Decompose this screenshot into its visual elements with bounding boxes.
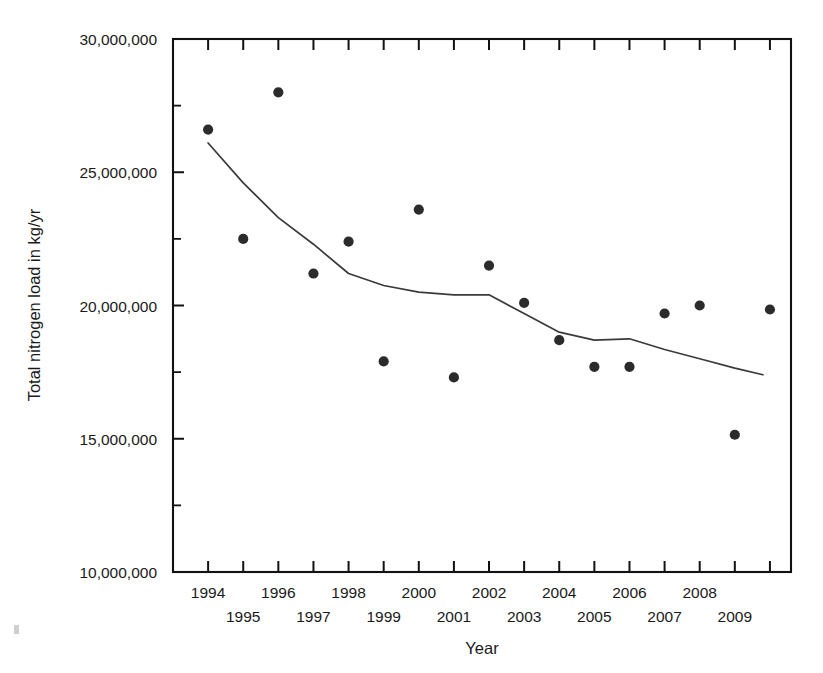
x-tick-label: 2001 — [437, 608, 471, 625]
x-axis-title: Year — [465, 639, 499, 657]
data-point — [765, 304, 775, 314]
data-point — [238, 234, 248, 244]
x-tick-label: 1999 — [366, 608, 400, 625]
x-tick-label: 1997 — [296, 608, 330, 625]
data-point — [379, 356, 389, 366]
x-tick-label: 2007 — [647, 608, 681, 625]
data-point — [730, 430, 740, 440]
data-point — [449, 372, 459, 382]
data-point — [343, 236, 353, 246]
x-tick-label: 1994 — [191, 584, 226, 601]
y-tick-label: 10,000,000 — [79, 564, 157, 581]
data-point — [624, 362, 634, 372]
x-tick-label: 2008 — [682, 584, 716, 601]
data-point — [203, 125, 213, 135]
data-point — [695, 300, 705, 310]
data-point — [273, 87, 283, 97]
y-axis-title: Total nitrogen load in kg/yr — [25, 208, 43, 401]
nitrogen-load-scatter-chart: 30,000,00025,000,00020,000,00015,000,000… — [0, 0, 823, 673]
scan-speck — [14, 625, 19, 634]
data-point — [519, 298, 529, 308]
x-tick-label: 2003 — [507, 608, 541, 625]
x-tick-label: 2004 — [542, 584, 577, 601]
x-tick-label: 2009 — [718, 608, 752, 625]
x-tick-label: 2006 — [612, 584, 646, 601]
y-tick-label: 20,000,000 — [79, 298, 157, 315]
x-tick-label: 2002 — [472, 584, 506, 601]
x-tick-label: 2000 — [402, 584, 437, 601]
data-point — [589, 362, 599, 372]
y-tick-label: 30,000,000 — [79, 31, 157, 48]
data-point — [659, 308, 669, 318]
data-point — [308, 268, 318, 278]
y-tick-label: 25,000,000 — [79, 164, 157, 181]
data-point — [484, 260, 494, 270]
x-tick-label: 1996 — [261, 584, 295, 601]
chart-figure: 30,000,00025,000,00020,000,00015,000,000… — [0, 0, 823, 673]
x-tick-label: 2005 — [577, 608, 611, 625]
x-tick-label: 1998 — [331, 584, 365, 601]
y-tick-label: 15,000,000 — [79, 431, 157, 448]
data-point — [414, 204, 424, 214]
data-point — [554, 335, 564, 345]
x-tick-label: 1995 — [226, 608, 260, 625]
chart-canvas: 30,000,00025,000,00020,000,00015,000,000… — [0, 0, 823, 673]
